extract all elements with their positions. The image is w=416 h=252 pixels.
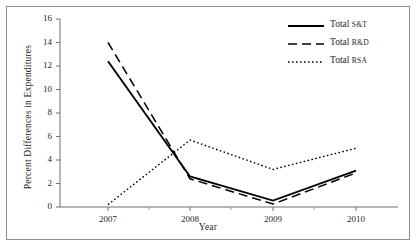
y-tick-label: 4: [30, 154, 52, 164]
series-line-rsa: [108, 140, 356, 205]
legend-label-word: Total: [330, 19, 349, 29]
x-axis-title: Year: [0, 222, 416, 232]
legend-label: Total RSA: [330, 55, 367, 65]
y-tick-label: 10: [30, 84, 52, 94]
legend-label-word: Total: [330, 55, 349, 65]
y-tick-label: 0: [30, 201, 52, 211]
legend-swatch-solid: [288, 18, 324, 30]
y-tick-label: 12: [30, 60, 52, 70]
y-tick-label: 2: [30, 178, 52, 188]
y-tick-label: 8: [30, 107, 52, 117]
legend-item-st: Total S&T: [288, 16, 410, 31]
y-axis-ticks: [56, 19, 60, 207]
legend-label-abbr: RSA: [352, 56, 367, 65]
legend-label: Total S&T: [330, 19, 367, 29]
legend-swatch-dotted: [288, 54, 324, 66]
legend-swatch-dashed: [288, 36, 324, 48]
legend-item-rd: Total R&D: [288, 34, 410, 49]
legend-label: Total R&D: [330, 37, 369, 47]
chart-figure: 0246810121416 2007200820092010 Percent D…: [0, 0, 416, 252]
x-axis-ticks: [108, 207, 356, 211]
chart-legend: Total S&TTotal R&DTotal RSA: [288, 16, 410, 70]
legend-item-rsa: Total RSA: [288, 52, 410, 67]
legend-label-abbr: R&D: [352, 38, 369, 47]
y-tick-label: 16: [30, 13, 52, 23]
legend-label-word: Total: [330, 37, 349, 47]
y-tick-label: 14: [30, 37, 52, 47]
y-axis-title: Percent Differences in Expenditures: [23, 17, 33, 217]
y-tick-label: 6: [30, 131, 52, 141]
legend-label-abbr: S&T: [352, 20, 367, 29]
series-line-st: [108, 61, 356, 200]
